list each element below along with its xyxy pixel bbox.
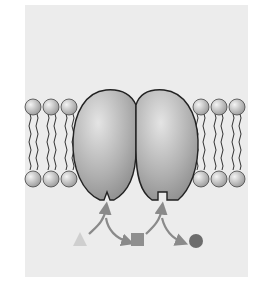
membrane-enzyme-diagram: [0, 0, 263, 289]
intermediate-square: [131, 233, 144, 246]
lipid-head: [61, 171, 77, 187]
enzyme-2: [136, 90, 198, 200]
lipid-head: [211, 171, 227, 187]
lipid-head: [25, 99, 41, 115]
lipid-head: [25, 171, 41, 187]
product-circle: [189, 234, 203, 248]
lipid-head: [229, 99, 245, 115]
enzyme-1: [73, 90, 136, 200]
lipid-head: [229, 171, 245, 187]
lipid-head: [193, 99, 209, 115]
lipid-head: [61, 99, 77, 115]
lipid-head: [43, 99, 59, 115]
lipid-head: [43, 171, 59, 187]
lipid-head: [193, 171, 209, 187]
lipid-head: [211, 99, 227, 115]
